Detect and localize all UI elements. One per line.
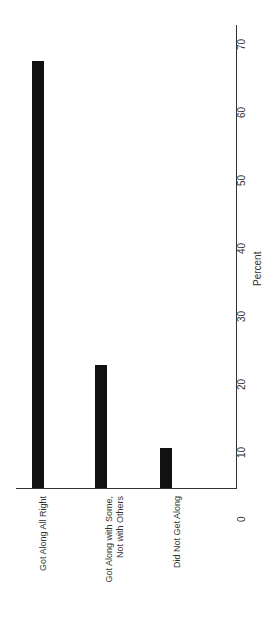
tick-70: 70: [236, 39, 247, 50]
tick-20: 20: [236, 379, 247, 390]
category-label-2: Did Not Get Along: [172, 496, 183, 596]
category-label-0: Got Along All Right: [38, 496, 49, 596]
category-label-1-line2: Not with Others: [115, 496, 126, 606]
category-label-1-line1: Got Along with Some,: [104, 496, 115, 606]
bar-got-along-with-some: [95, 365, 107, 488]
tick-50: 50: [236, 175, 247, 186]
y-axis-label: Percent: [252, 252, 263, 286]
tick-10: 10: [236, 447, 247, 458]
bar-got-along-all-right: [32, 61, 44, 488]
tick-60: 60: [236, 107, 247, 118]
baseline-axis-line: [16, 488, 237, 489]
tick-40: 40: [236, 243, 247, 254]
bar-did-not-get-along: [160, 448, 172, 488]
category-label-1: Got Along with Some, Not with Others: [104, 496, 126, 606]
tick-30: 30: [236, 311, 247, 322]
value-axis-line: [236, 25, 237, 489]
tick-0: 0: [236, 516, 247, 522]
